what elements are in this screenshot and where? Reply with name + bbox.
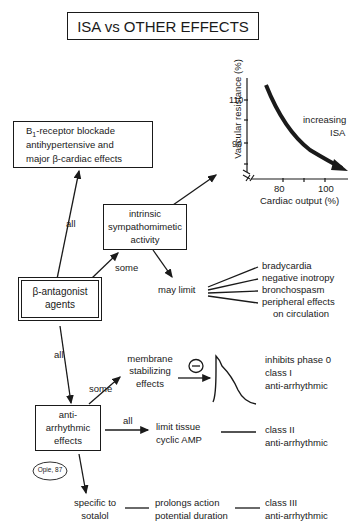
b1-line2: antihypertensive and [26,139,114,151]
class3-line1: class III [265,497,297,509]
class3-line2: anti-arrhythmic [265,510,328,522]
membrane-line1: membrane [122,353,178,365]
edge-label-all-b1: all [66,218,76,230]
prolongs-line1: prolongs action [155,497,219,509]
y-tick-110: 110 [229,94,243,106]
y-tick-90: 90 [232,138,242,150]
b1-line3: major β-cardiac effects [26,153,122,165]
anti-arrhythmic-box: anti- arrhythmic effects [35,405,101,451]
action-potential-curve [213,356,256,404]
isa-line2: sympathomimetic [104,221,186,233]
sotalol-line1: specific to [68,497,122,509]
sotalol-line2: sotalol [68,510,122,522]
limit-item-0: bradycardia [262,260,312,272]
b1-receptor-box: B1-receptor blockade antihypertensive an… [13,121,153,168]
x-tick-80: 80 [274,183,285,195]
chart-annotation-line2: ISA [330,127,345,139]
limit-item-2: bronchospasm [262,284,324,296]
class1-line2: class I [265,367,292,379]
anti-line2: arrhythmic [36,422,100,434]
class2-line2: anti-arrhythmic [265,437,328,449]
edge-label-some-membrane: some [89,383,112,395]
citation: Opie, 87 [33,465,67,475]
isa-box: intrinsic sympathomimetic activity [103,204,187,250]
limit-camp-line1: limit tissue [156,421,200,433]
isa-line3: activity [104,234,186,246]
edge-label-all-anti: all [54,349,64,361]
class2-line1: class II [265,424,295,436]
limit-item-4: on circulation [273,308,329,320]
membrane-line2: stabilizing [122,365,178,377]
limit-camp-line2: cyclic AMP [156,434,202,446]
limit-item-1: negative inotropy [262,272,334,284]
anti-line1: anti- [36,409,100,421]
edge-label-some-isa: some [115,262,138,274]
b1-rest: -receptor blockade [36,125,115,136]
chart-annotation-line1: increasing [303,114,346,126]
anti-line3: effects [36,435,100,447]
isa-line1: intrinsic [104,208,186,220]
prolongs-line2: potential duration [155,510,228,522]
limit-item-3: peripheral effects [262,296,335,308]
class1-line1: inhibits phase 0 [265,354,331,366]
x-axis-label: Cardiac output (%) [260,195,339,207]
beta-line1: β-antagonist [19,286,101,298]
x-tick-100: 100 [318,183,334,195]
edge-label-all-camp: all [123,415,133,427]
y-axis-label: Vascular resistance (%) [232,49,244,169]
class1-line3: anti-arrhythmic [265,380,328,392]
membrane-line3: effects [122,378,178,390]
may-limit-label: may limit [158,284,195,296]
beta-line2: agents [19,299,101,311]
beta-antagonist-box: β-antagonist agents [18,277,102,321]
